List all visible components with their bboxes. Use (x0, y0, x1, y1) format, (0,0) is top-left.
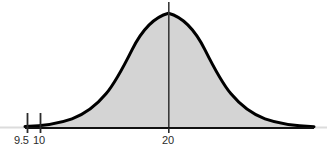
x-tick-label-9-5: 9.5 (14, 135, 29, 146)
normal-distribution-figure: 9.5 10 20 (0, 0, 327, 161)
x-tick-label-10: 10 (33, 135, 45, 146)
x-tick-label-20: 20 (162, 135, 174, 146)
